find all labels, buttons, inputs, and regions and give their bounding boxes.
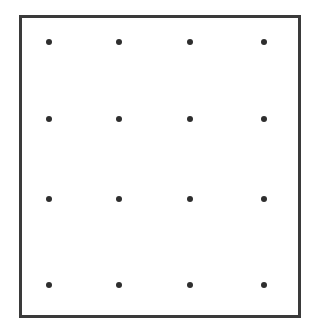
grid-dot [187,116,193,122]
grid-dot [261,282,267,288]
grid-dot [46,282,52,288]
grid-dot [261,39,267,45]
grid-dot [116,39,122,45]
grid-dot [116,116,122,122]
grid-dot [187,282,193,288]
grid-dot [46,196,52,202]
grid-dot [116,196,122,202]
grid-dot [187,196,193,202]
grid-dot [46,39,52,45]
grid-dot [46,116,52,122]
grid-dot [116,282,122,288]
grid-dot [261,196,267,202]
grid-dot [261,116,267,122]
grid-frame [19,15,301,318]
grid-dot [187,39,193,45]
